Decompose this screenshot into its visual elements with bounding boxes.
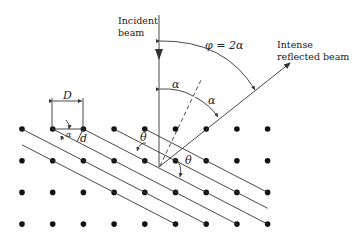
reflected-label-1: Intense (277, 39, 313, 50)
theta-arc-left (137, 143, 146, 151)
lattice-point (111, 126, 117, 132)
alpha-label-small: α (66, 130, 72, 139)
reflected-label-2: reflected beam (277, 51, 349, 62)
lattice-point (81, 221, 87, 227)
theta-label-right: θ (185, 154, 192, 167)
phi-label: φ = 2α (205, 39, 244, 52)
lattice-plane-line (145, 129, 268, 192)
lattice-point (265, 126, 271, 132)
d-label: d (80, 132, 87, 145)
lattice-point (142, 221, 148, 227)
alpha-small-arc-top (66, 120, 69, 129)
lattice-plane-line (83, 129, 267, 224)
lattice-point (265, 221, 271, 227)
lattice-plane-line (114, 129, 268, 208)
lattice-point (19, 190, 25, 196)
lattice-point (81, 190, 87, 196)
lattice-plane-line (22, 129, 206, 224)
incident-arrow-icon (155, 49, 163, 60)
theta-label-left: θ (140, 131, 147, 144)
alpha-small-arc-bottom (61, 138, 64, 140)
lattice-point (173, 126, 179, 132)
lattice-plane-line (22, 145, 176, 224)
lattice-point (234, 126, 240, 132)
lattice-point (19, 221, 25, 227)
incident-label-1: Incident (118, 15, 158, 26)
lattice-point (50, 190, 56, 196)
lattice-point (19, 158, 25, 164)
lattice-point (265, 158, 271, 164)
lattice-point (265, 190, 271, 196)
lattice-point (111, 221, 117, 227)
bragg-diagram: Incident beam Intense reflected beam φ =… (0, 0, 354, 250)
lattice-point (50, 221, 56, 227)
plane-normal-dashed (160, 80, 201, 166)
alpha-label-left: α (172, 78, 180, 91)
incident-label-2: beam (118, 27, 144, 38)
lattice-point (234, 158, 240, 164)
D-label: D (62, 89, 72, 102)
alpha-label-right: α (208, 94, 216, 107)
